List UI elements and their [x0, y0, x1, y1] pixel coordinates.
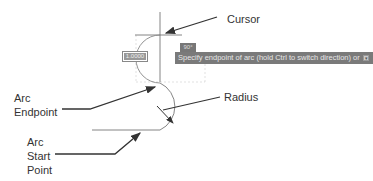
cursor-label: Cursor [227, 13, 260, 25]
arc-start-line1: Arc [27, 136, 52, 148]
crosshair-cursor-icon [135, 12, 182, 82]
radius-label: Radius [224, 91, 258, 103]
angle-display: 90° [180, 43, 196, 52]
arc-start-line3: Point [27, 164, 52, 176]
arc-start-point-label: Arc Start Point [27, 136, 52, 176]
command-prompt-tooltip: Specify endpoint of arc (hold Ctrl to sw… [175, 52, 373, 64]
endpoint-callout-arrow [62, 87, 155, 109]
arc-endpoint-line1: Arc [14, 92, 57, 104]
arc-endpoint-line2: Endpoint [14, 106, 57, 118]
arc-start-line2: Start [27, 150, 52, 162]
prompt-text: Specify endpoint of arc (hold Ctrl to sw… [178, 53, 360, 62]
down-arrow-icon[interactable]: ▾ [363, 55, 369, 61]
drawing-canvas[interactable] [0, 0, 373, 181]
arc-endpoint-label: Arc Endpoint [14, 92, 57, 118]
radius-callout-arrow [163, 97, 220, 110]
dynamic-input-value: 1.0000 [124, 53, 146, 60]
cursor-callout-arrow [166, 17, 217, 33]
dynamic-input-field[interactable]: 1.0000 [122, 51, 148, 62]
startpoint-callout-arrow [55, 133, 140, 154]
